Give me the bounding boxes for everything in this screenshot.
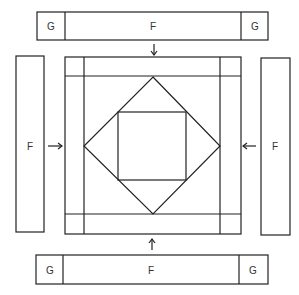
arrow-left-icon bbox=[243, 143, 256, 149]
bottom-center-label: F bbox=[148, 265, 154, 276]
quilt-block-diagram: G F G G F G F F bbox=[0, 0, 299, 295]
top-center-label: F bbox=[150, 21, 156, 32]
inner-square bbox=[118, 112, 186, 180]
diamond bbox=[84, 77, 220, 214]
arrow-right-icon bbox=[48, 143, 62, 149]
top-right-label: G bbox=[251, 21, 259, 32]
center-block bbox=[65, 57, 241, 234]
left-strip-label: F bbox=[27, 141, 33, 152]
arrow-up-icon bbox=[149, 239, 155, 250]
arrow-down-icon bbox=[151, 44, 157, 55]
right-strip-label: F bbox=[272, 141, 278, 152]
top-left-label: G bbox=[47, 21, 55, 32]
bottom-right-label: G bbox=[249, 265, 257, 276]
bottom-left-label: G bbox=[46, 265, 54, 276]
